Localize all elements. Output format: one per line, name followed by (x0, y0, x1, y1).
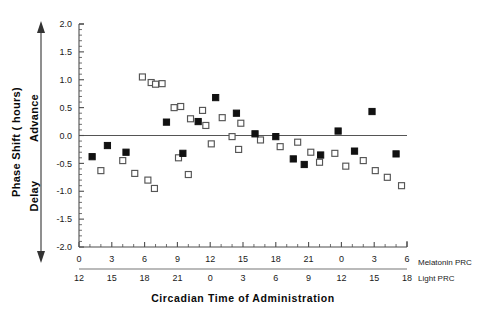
data-point-filled-square (335, 128, 341, 134)
data-point-open-square (295, 139, 301, 145)
data-point-filled-square (104, 142, 110, 148)
data-point-filled-square (393, 151, 399, 157)
data-point-open-square (120, 158, 126, 164)
x-axis-light-tick-label: 12 (74, 273, 84, 283)
data-point-open-square (203, 122, 209, 128)
data-point-open-square (153, 81, 159, 87)
data-point-filled-square (163, 119, 169, 125)
x-axis-melatonin-tick-label: 3 (372, 254, 377, 264)
y-axis-tick-label: -0.5 (56, 159, 72, 169)
x-axis-light-tick-label: 18 (140, 273, 150, 283)
y-axis-tick-label: 0.5 (59, 103, 72, 113)
data-point-open-square (188, 116, 194, 122)
y-axis-tick-label: -2.0 (56, 242, 72, 252)
data-point-open-square (317, 159, 323, 165)
x-axis-melatonin-tick-label: 21 (304, 254, 314, 264)
data-point-open-square (151, 185, 157, 191)
x-axis-melatonin-tick-label: 6 (142, 254, 147, 264)
x-axis-light-tick-label: 15 (369, 273, 379, 283)
x-axis-melatonin-tick-label: 0 (339, 254, 344, 264)
data-point-open-square (145, 177, 151, 183)
data-point-filled-square (273, 134, 279, 140)
data-point-filled-square (369, 108, 375, 114)
phase-response-curve-figure: Advance Delay Phase Shift ( hours) 2.01.… (0, 0, 499, 311)
x-axis-melatonin-tick-label: 0 (76, 254, 81, 264)
y-axis-tick-label: 0.0 (59, 131, 72, 141)
data-point-filled-square (213, 94, 219, 100)
y-axis-tick-label: 1.5 (59, 47, 72, 57)
data-point-open-square (229, 134, 235, 140)
data-point-filled-square (301, 161, 307, 167)
data-point-filled-square (233, 110, 239, 116)
data-point-filled-square (351, 148, 357, 154)
x-axis-melatonin-tick-label: 6 (404, 254, 409, 264)
x-axis-light-tick-label: 0 (208, 273, 213, 283)
data-point-open-square (208, 141, 214, 147)
x-axis-melatonin-tick-label: 3 (109, 254, 114, 264)
x-axis-light-tick-label: 12 (336, 273, 346, 283)
data-point-open-square (132, 170, 138, 176)
data-point-open-square (200, 107, 206, 113)
data-point-open-square (236, 146, 242, 152)
y-axis-title: Phase Shift ( hours) (10, 87, 22, 197)
x-axis-light-tick-label: 6 (273, 273, 278, 283)
data-point-open-square (332, 150, 338, 156)
data-point-open-square (98, 168, 104, 174)
prc-scatter-chart: Advance Delay Phase Shift ( hours) 2.01.… (0, 0, 499, 311)
x-axis-melatonin-tick-label: 15 (238, 254, 248, 264)
data-point-open-square (308, 149, 314, 155)
data-point-open-square (360, 158, 366, 164)
x-axis-melatonin-tick-label: 9 (175, 254, 180, 264)
y-axis-tick-label: 2.0 (59, 19, 72, 29)
data-point-open-square (372, 168, 378, 174)
data-point-open-square (171, 105, 177, 111)
data-point-filled-square (290, 156, 296, 162)
y-axis-advance-label: Advance (28, 94, 40, 142)
data-point-open-square (178, 104, 184, 110)
data-point-open-square (238, 120, 244, 126)
y-axis-tick-label: -1.5 (56, 214, 72, 224)
x-axis-melatonin-tick-label: 12 (205, 254, 215, 264)
x-axis-light-tick-label: 3 (240, 273, 245, 283)
y-axis-delay-label: Delay (28, 180, 40, 211)
x-axis-title: Circadian Time of Administration (151, 292, 335, 304)
data-point-open-square (277, 144, 283, 150)
data-point-filled-square (123, 149, 129, 155)
y-axis-tick-label: 1.0 (59, 75, 72, 85)
data-point-open-square (399, 183, 405, 189)
data-point-open-square (185, 172, 191, 178)
y-axis-tick-label: -1.0 (56, 186, 72, 196)
light-prc-row-label: Light PRC (418, 274, 455, 283)
x-axis-light-tick-label: 18 (402, 273, 412, 283)
x-axis-melatonin-tick-label: 18 (271, 254, 281, 264)
data-point-open-square (219, 115, 225, 121)
data-point-filled-square (89, 154, 95, 160)
data-point-filled-square (252, 131, 258, 137)
data-point-filled-square (318, 152, 324, 158)
data-point-filled-square (180, 150, 186, 156)
data-point-open-square (343, 163, 349, 169)
x-axis-light-tick-label: 21 (172, 273, 182, 283)
data-point-open-square (257, 137, 263, 143)
data-point-open-square (159, 81, 165, 87)
data-point-filled-square (195, 118, 201, 124)
x-axis-light-tick-label: 15 (107, 273, 117, 283)
data-point-open-square (139, 74, 145, 80)
data-point-open-square (384, 174, 390, 180)
melatonin-prc-row-label: Melatonin PRC (418, 258, 472, 267)
x-axis-light-tick-label: 9 (306, 273, 311, 283)
